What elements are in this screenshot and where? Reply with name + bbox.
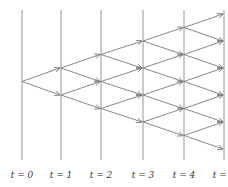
time-label-4: t = 4: [173, 170, 196, 180]
tree-edge-arrow: [61, 55, 100, 69]
tree-edge-arrow: [61, 68, 100, 82]
tree-edge-arrow: [143, 55, 183, 69]
tree-edge-arrow: [184, 68, 223, 82]
tree-edge-arrow: [184, 95, 223, 109]
tree-edge-arrow: [143, 95, 183, 109]
time-label-2: t = 2: [90, 170, 113, 180]
tree-edge-arrow: [61, 82, 100, 96]
time-label-5: t = 5: [213, 170, 228, 180]
tree-edge-arrow: [22, 68, 60, 82]
time-label-0: t = 0: [11, 170, 34, 180]
tree-edge-arrow: [143, 109, 183, 123]
tree-edge-arrow: [143, 41, 183, 55]
tree-edge-arrow: [184, 14, 223, 28]
tree-edge-arrow: [184, 122, 223, 136]
tree-edge-arrow: [184, 41, 223, 55]
tree-edge-arrow: [184, 82, 223, 96]
tree-edge-arrow: [101, 41, 142, 55]
tree-edges: [22, 14, 223, 149]
tree-edge-arrow: [184, 28, 223, 42]
tree-edge-arrow: [61, 95, 100, 109]
tree-edge-arrow: [184, 109, 223, 123]
tree-edge-arrow: [143, 122, 183, 136]
tree-edge-arrow: [101, 95, 142, 109]
binomial-tree-diagram: [0, 0, 228, 187]
tree-edge-arrow: [101, 68, 142, 82]
tree-edge-arrow: [101, 109, 142, 123]
tree-edge-arrow: [143, 82, 183, 96]
tree-edge-arrow: [143, 28, 183, 42]
tree-edge-arrow: [143, 68, 183, 82]
tree-edge-arrow: [184, 55, 223, 69]
time-label-1: t = 1: [50, 170, 73, 180]
time-label-3: t = 3: [132, 170, 155, 180]
tree-edge-arrow: [101, 55, 142, 69]
tree-edge-arrow: [22, 82, 60, 96]
tree-edge-arrow: [184, 136, 223, 150]
tree-edge-arrow: [101, 82, 142, 96]
